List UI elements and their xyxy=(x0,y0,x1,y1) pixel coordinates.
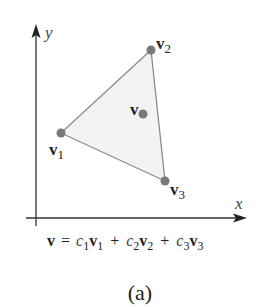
point-v3 xyxy=(161,177,170,186)
x-axis-label: x xyxy=(234,194,243,213)
label-v1: v1 xyxy=(49,140,64,162)
equation: v = c1v1 + c2v2 + c3v3 xyxy=(47,232,203,253)
label-v3: v3 xyxy=(170,180,185,202)
y-axis-label: y xyxy=(43,23,53,42)
label-v2: v2 xyxy=(156,34,171,56)
triangle-region xyxy=(61,50,165,181)
figure-caption: (a) xyxy=(128,280,152,305)
point-v1 xyxy=(57,129,66,138)
barycentric-diagram: y x v1 v2 v3 v v = c1v1 + c2v2 + c3v3 (a… xyxy=(0,0,262,307)
point-v xyxy=(139,110,148,119)
label-v: v xyxy=(130,100,139,119)
point-v2 xyxy=(147,46,156,55)
